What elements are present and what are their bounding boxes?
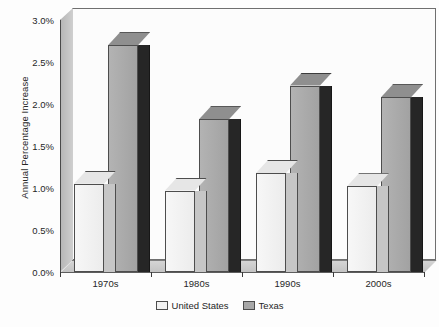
- bar-side-face: [229, 119, 241, 272]
- y-axis-tick-label: 2.0%: [14, 99, 54, 110]
- x-axis-tick-label: 2000s: [366, 278, 392, 289]
- bar-front-face: [256, 173, 286, 272]
- bar-united-states-2000s: [347, 186, 377, 272]
- legend-item: United States: [156, 300, 229, 311]
- x-axis-tick-mark: [242, 272, 243, 277]
- bar-side-face: [195, 191, 207, 272]
- y-axis-line: [60, 20, 61, 273]
- bar-side-face: [138, 45, 150, 272]
- y-axis-tick-label: 1.0%: [14, 183, 54, 194]
- bar-united-states-1970s: [74, 184, 104, 272]
- y-axis-tick-label: 0.0%: [14, 267, 54, 278]
- bar-front-face: [347, 186, 377, 272]
- x-axis-tick-mark: [151, 272, 152, 277]
- bar-united-states-1980s: [165, 191, 195, 272]
- chart-legend: United StatesTexas: [0, 300, 439, 311]
- x-axis-tick-label: 1970s: [93, 278, 119, 289]
- x-axis-tick-label: 1980s: [184, 278, 210, 289]
- x-axis-tick-mark: [424, 272, 425, 277]
- y-axis-tick-label: 1.5%: [14, 141, 54, 152]
- y-axis-tick-label: 2.5%: [14, 57, 54, 68]
- x-axis-tick-labels: 1970s1980s1990s2000s: [60, 272, 439, 294]
- plot-left-wall: [60, 8, 73, 272]
- x-axis-tick-mark: [333, 272, 334, 277]
- x-axis-tick-label: 1990s: [275, 278, 301, 289]
- legend-label: Texas: [259, 300, 284, 311]
- bar-side-face: [411, 97, 423, 272]
- bar-side-face: [104, 184, 116, 272]
- bar-side-face: [320, 86, 332, 272]
- bar-front-face: [74, 184, 104, 272]
- y-axis-tick-label: 3.0%: [14, 15, 54, 26]
- legend-swatch-texas: [243, 301, 255, 310]
- y-axis-tick-labels: 0.0%0.5%1.0%1.5%2.0%2.5%3.0%: [14, 0, 54, 290]
- x-axis-tick-mark: [60, 272, 61, 277]
- bar-side-face: [377, 186, 389, 272]
- plot-area: [60, 20, 424, 272]
- bar-front-face: [165, 191, 195, 272]
- legend-label: United States: [172, 300, 229, 311]
- bar-side-face: [286, 173, 298, 272]
- legend-swatch-united-states: [156, 301, 168, 310]
- bar-united-states-1990s: [256, 173, 286, 272]
- bar-chart-figure: Annual Percentage Increase 0.0%0.5%1.0%1…: [0, 0, 439, 327]
- legend-item: Texas: [243, 300, 284, 311]
- y-axis-tick-label: 0.5%: [14, 225, 54, 236]
